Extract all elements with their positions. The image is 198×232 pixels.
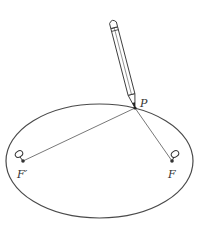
focus-point-f [170, 159, 174, 163]
string-line-f-prime-to-p [23, 108, 135, 161]
string-line-f-to-p [135, 108, 172, 161]
point-p [133, 106, 136, 109]
ellipse-curve [6, 104, 193, 218]
pin-f-prime-icon [14, 149, 24, 161]
pin-f-icon [170, 149, 180, 161]
label-f-prime: F′ [16, 168, 28, 181]
pencil-icon [109, 20, 138, 109]
ellipse-construction-diagram: P F′ F [0, 0, 198, 232]
label-p: P [139, 97, 148, 110]
label-f: F [167, 168, 176, 181]
focus-point-f-prime [21, 159, 25, 163]
